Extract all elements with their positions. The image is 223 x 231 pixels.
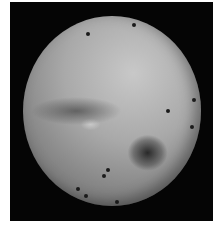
reseau-dot (132, 23, 136, 27)
reseau-dot (192, 98, 196, 102)
reseau-dot (76, 187, 80, 191)
planet-disk (23, 16, 201, 206)
reseau-dot (84, 194, 88, 198)
reseau-dot (190, 125, 194, 129)
reseau-dot (106, 168, 110, 172)
reseau-dot (166, 109, 170, 113)
reseau-dot (115, 200, 119, 204)
reseau-dot (86, 32, 90, 36)
reseau-dot (102, 174, 106, 178)
